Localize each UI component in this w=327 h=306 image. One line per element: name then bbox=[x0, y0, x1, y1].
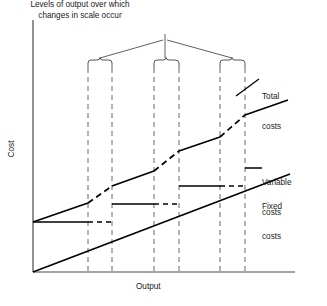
variable-costs-series bbox=[33, 174, 290, 272]
total-costs-series bbox=[33, 100, 288, 222]
series-label-fixed-costs-line-1: Fixed bbox=[262, 202, 282, 212]
variable-costs-line bbox=[33, 174, 290, 272]
series-label-total-costs: Total costs bbox=[262, 72, 281, 152]
pointer-right-icon bbox=[167, 40, 232, 58]
bracket-1-icon bbox=[88, 58, 112, 69]
bracket-2-icon bbox=[154, 58, 179, 69]
total-costs-step-dashed bbox=[154, 151, 179, 171]
axes-group bbox=[33, 20, 295, 272]
total-costs-segment bbox=[33, 203, 88, 222]
x-axis-label: Output bbox=[136, 282, 161, 292]
total-costs-segment bbox=[112, 171, 154, 186]
total-costs-segment bbox=[179, 137, 220, 151]
fixed-costs-series bbox=[33, 168, 262, 222]
scale-change-brackets bbox=[88, 58, 245, 69]
callout-pointers bbox=[100, 34, 232, 58]
series-label-total-costs-line-1: Total bbox=[262, 92, 281, 102]
label-leader-lines bbox=[236, 79, 259, 96]
pointer-left-icon bbox=[100, 40, 163, 58]
series-label-fixed-costs-line-2: costs bbox=[262, 232, 282, 242]
series-label-fixed-costs: Fixed costs bbox=[262, 182, 282, 262]
y-axis-label: Cost bbox=[7, 129, 17, 169]
series-label-total-costs-line-2: costs bbox=[262, 122, 281, 132]
total-costs-step-dashed bbox=[220, 115, 245, 137]
chart-figure: Levels of output over which changes in s… bbox=[0, 0, 327, 306]
total-costs-step-dashed bbox=[88, 186, 112, 203]
bracket-3-icon bbox=[220, 58, 245, 69]
total-costs-leader-line bbox=[236, 79, 259, 96]
